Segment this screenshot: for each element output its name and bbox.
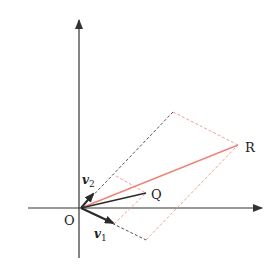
label-r: R <box>245 140 256 155</box>
vector-v1 <box>81 208 113 223</box>
label-q: Q <box>151 187 162 202</box>
label-v2: v2 <box>82 173 95 189</box>
label-v1: v1 <box>94 227 107 243</box>
label-origin: O <box>64 213 75 228</box>
vector-diagram: O Q R v2 v1 <box>0 0 279 279</box>
label-v1-sub: 1 <box>101 233 107 243</box>
big-parallelogram-top-side <box>173 112 238 145</box>
label-v2-sub: 2 <box>89 179 95 189</box>
small-parallelogram-top-side <box>116 176 146 193</box>
